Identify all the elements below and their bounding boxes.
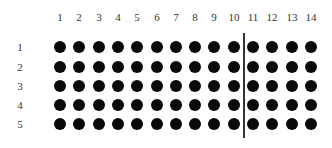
- dot: [170, 61, 182, 73]
- dot: [189, 61, 201, 73]
- dot: [170, 41, 182, 53]
- column-label: 3: [89, 10, 109, 24]
- dot: [305, 118, 317, 130]
- dot: [228, 80, 240, 92]
- dot: [54, 80, 66, 92]
- column-label: 2: [69, 10, 89, 24]
- dot: [286, 99, 298, 111]
- dot: [266, 80, 278, 92]
- dot: [73, 41, 85, 53]
- column-label: 12: [262, 10, 282, 24]
- dot: [266, 99, 278, 111]
- dot: [151, 61, 163, 73]
- dot: [286, 80, 298, 92]
- dot: [54, 99, 66, 111]
- column-label: 4: [108, 10, 128, 24]
- column-label: 10: [224, 10, 244, 24]
- dot: [73, 118, 85, 130]
- dot: [208, 99, 220, 111]
- dot: [286, 118, 298, 130]
- dot: [305, 80, 317, 92]
- dot: [112, 99, 124, 111]
- dot: [208, 118, 220, 130]
- dot: [93, 118, 105, 130]
- dot: [112, 118, 124, 130]
- dot: [112, 80, 124, 92]
- row-label: 1: [14, 40, 26, 54]
- dot: [189, 41, 201, 53]
- dot: [189, 118, 201, 130]
- dot: [170, 80, 182, 92]
- dot: [112, 61, 124, 73]
- dot: [247, 80, 259, 92]
- dot: [228, 41, 240, 53]
- dot: [93, 41, 105, 53]
- dot: [208, 41, 220, 53]
- dot: [247, 118, 259, 130]
- column-label: 13: [282, 10, 302, 24]
- dot: [286, 41, 298, 53]
- dot: [73, 61, 85, 73]
- row-label: 3: [14, 79, 26, 93]
- dot: [131, 41, 143, 53]
- dot: [131, 80, 143, 92]
- dot: [93, 61, 105, 73]
- column-label: 11: [243, 10, 263, 24]
- dot: [73, 99, 85, 111]
- dot: [93, 80, 105, 92]
- dot: [305, 61, 317, 73]
- dot: [247, 41, 259, 53]
- dot: [266, 41, 278, 53]
- dot: [151, 118, 163, 130]
- dot: [228, 61, 240, 73]
- dot: [54, 118, 66, 130]
- dot: [247, 61, 259, 73]
- dot: [266, 61, 278, 73]
- dot: [208, 61, 220, 73]
- dot: [93, 99, 105, 111]
- dot: [131, 61, 143, 73]
- dot: [170, 118, 182, 130]
- dot: [305, 99, 317, 111]
- dot: [189, 99, 201, 111]
- dot: [112, 41, 124, 53]
- column-label: 6: [147, 10, 167, 24]
- dot: [131, 99, 143, 111]
- dot: [170, 99, 182, 111]
- column-label: 5: [127, 10, 147, 24]
- dot: [151, 80, 163, 92]
- column-divider-line: [243, 33, 245, 138]
- dot: [54, 41, 66, 53]
- dot: [151, 41, 163, 53]
- dot: [266, 118, 278, 130]
- row-label: 5: [14, 117, 26, 131]
- dot: [189, 80, 201, 92]
- dot: [208, 80, 220, 92]
- column-label: 7: [166, 10, 186, 24]
- dot: [228, 118, 240, 130]
- row-label: 2: [14, 60, 26, 74]
- dot: [305, 41, 317, 53]
- row-label: 4: [14, 98, 26, 112]
- column-label: 14: [301, 10, 321, 24]
- dot: [286, 61, 298, 73]
- column-label: 9: [204, 10, 224, 24]
- column-label: 8: [185, 10, 205, 24]
- column-label: 1: [50, 10, 70, 24]
- dot: [73, 80, 85, 92]
- dot: [247, 99, 259, 111]
- dot: [151, 99, 163, 111]
- dot: [54, 61, 66, 73]
- dot: [228, 99, 240, 111]
- dot: [131, 118, 143, 130]
